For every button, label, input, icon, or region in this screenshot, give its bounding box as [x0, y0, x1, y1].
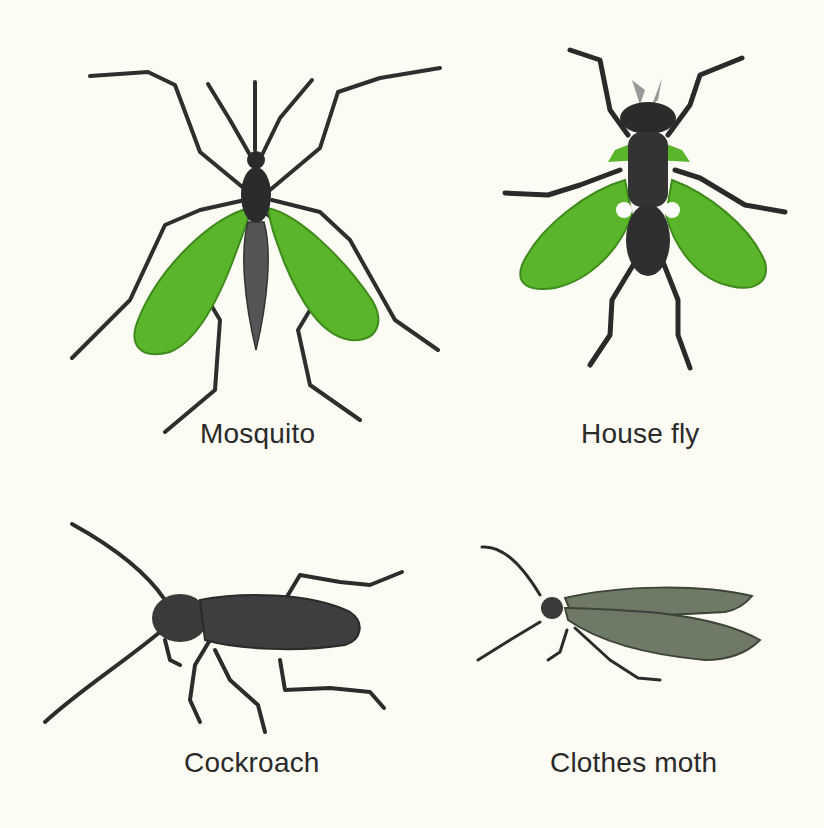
caption-mosquito: Mosquito — [200, 418, 315, 450]
house-fly-icon — [440, 0, 824, 440]
caption-clothes-moth: Clothes moth — [550, 747, 717, 779]
mosquito-icon — [0, 0, 440, 440]
insect-panel-cockroach: Cockroach — [0, 470, 440, 828]
clothes-moth-icon — [440, 470, 824, 710]
insect-panel-clothes-moth: Clothes moth — [440, 470, 824, 828]
insect-panel-mosquito: Mosquito — [0, 0, 440, 470]
insect-panel-house-fly: House fly — [440, 0, 824, 470]
caption-house-fly: House fly — [581, 418, 700, 450]
cockroach-icon — [0, 470, 440, 770]
caption-cockroach: Cockroach — [184, 747, 320, 779]
